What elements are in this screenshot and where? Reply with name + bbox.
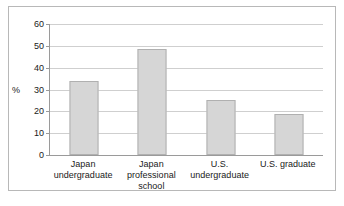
bar-slot <box>255 24 323 155</box>
x-axis-category-label-line: U.S. <box>186 159 254 170</box>
bar[interactable] <box>206 100 235 155</box>
x-axis-category-label-line: school <box>117 181 185 192</box>
plot-area <box>49 24 323 156</box>
x-axis-category-label: Japanundergraduate <box>49 159 117 181</box>
x-axis-category-label-line: Japan professional <box>117 159 185 181</box>
x-axis: JapanundergraduateJapan professionalscho… <box>49 159 323 189</box>
x-axis-category-label: U.S.undergraduate <box>186 159 254 181</box>
bar-slot <box>118 24 186 155</box>
x-axis-category-label: U.S. graduate <box>254 159 322 170</box>
y-axis-tick-label: 40 <box>34 63 44 72</box>
x-axis-category-label-line: undergraduate <box>186 170 254 181</box>
bar-slot <box>50 24 118 155</box>
y-axis-tick-label: 10 <box>34 129 44 138</box>
bar[interactable] <box>70 81 99 155</box>
x-axis-category-label-line: U.S. graduate <box>254 159 322 170</box>
bar-slot <box>187 24 255 155</box>
y-axis-tick-label: 0 <box>39 151 44 160</box>
y-axis-tick-label: 60 <box>34 20 44 29</box>
y-axis-tick-label: 30 <box>34 85 44 94</box>
bar-chart-figure: 0102030405060 % JapanundergraduateJapan … <box>8 6 336 191</box>
x-axis-category-label-line: undergraduate <box>49 170 117 181</box>
bar[interactable] <box>138 49 167 155</box>
y-axis-tick-label: 20 <box>34 107 44 116</box>
bar[interactable] <box>274 114 303 155</box>
x-axis-category-label-line: Japan <box>49 159 117 170</box>
x-axis-category-label: Japan professionalschool <box>117 159 185 192</box>
y-axis-unit-label: % <box>12 85 20 94</box>
y-axis-tick-label: 50 <box>34 41 44 50</box>
